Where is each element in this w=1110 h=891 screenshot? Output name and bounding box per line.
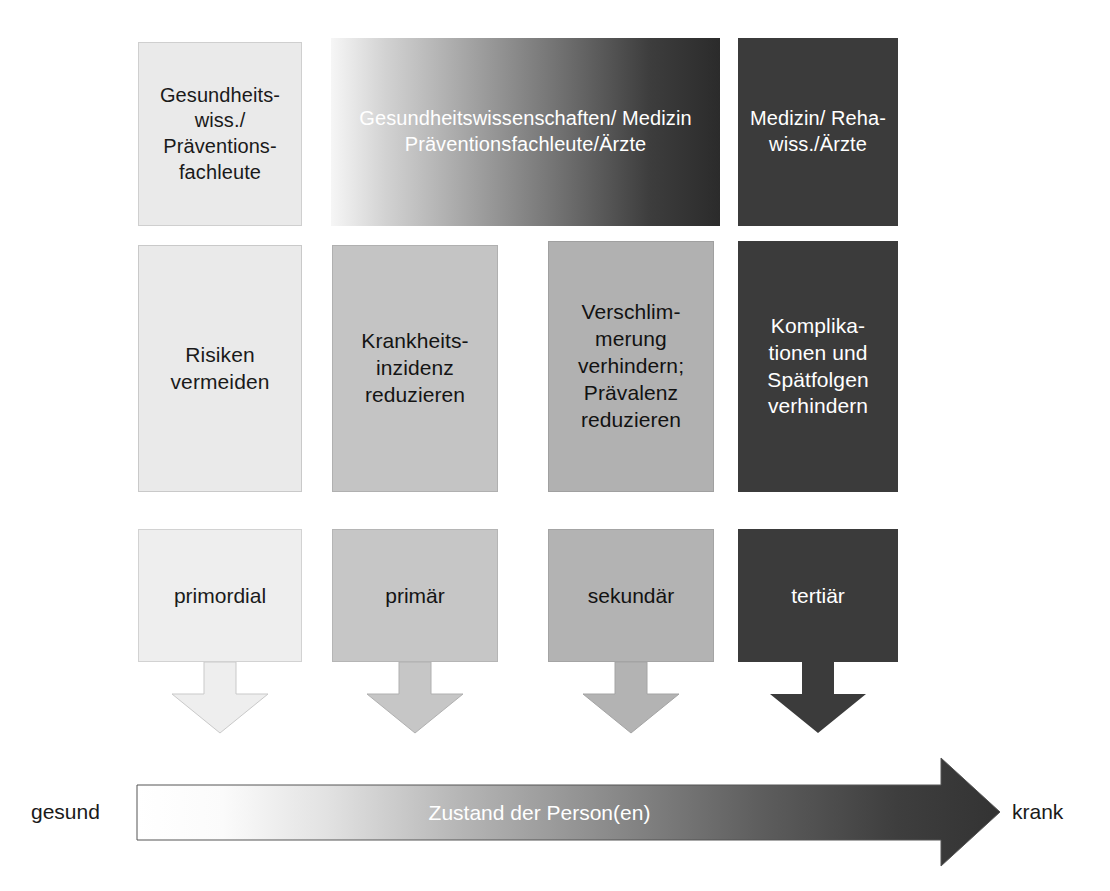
- continuum-end-label: krank: [1012, 800, 1063, 824]
- continuum-label-text: Zustand der Person(en): [429, 801, 651, 825]
- continuum-end-label-text: krank: [1012, 800, 1063, 823]
- continuum-label: Zustand der Person(en): [137, 785, 942, 840]
- health-disease-continuum-arrow: [0, 0, 1110, 891]
- continuum-start-label-text: gesund: [31, 800, 100, 823]
- continuum-start-label: gesund: [31, 800, 100, 824]
- diagram-canvas: Gesundheits-wiss./Präventions-fachleute …: [0, 0, 1110, 891]
